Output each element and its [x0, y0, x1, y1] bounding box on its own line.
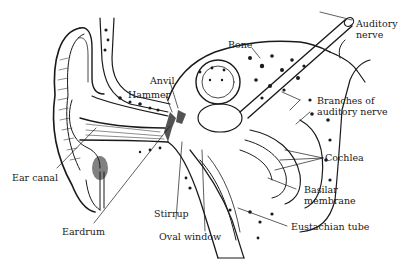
ear-canal-shape	[80, 118, 168, 142]
label-hammer: Hammer	[128, 89, 170, 100]
label-anvil: Anvil	[150, 75, 174, 86]
tissue-stipple	[92, 156, 108, 180]
label-auditory-nerve-line2: nerve	[356, 29, 398, 40]
label-bone: Bone	[228, 39, 252, 50]
label-cochlea: Cochlea	[325, 152, 364, 163]
label-oval-window: Oval window	[159, 231, 221, 242]
label-basilar-membrane: Basilar membrane	[304, 184, 356, 206]
label-branches-line2: auditory nerve	[317, 106, 388, 117]
label-auditory-nerve-line1: Auditory	[356, 18, 398, 29]
pinna-hatching	[58, 58, 80, 160]
label-eardrum: Eardrum	[62, 226, 105, 237]
label-auditory-nerve: Auditory nerve	[356, 18, 398, 40]
label-eustachian-tube: Eustachian tube	[291, 221, 369, 232]
label-branches-of-auditory-nerve: Branches of auditory nerve	[317, 95, 388, 117]
label-basilar-line1: Basilar	[304, 184, 356, 195]
label-basilar-line2: membrane	[304, 195, 356, 206]
label-branches-line1: Branches of	[317, 95, 388, 106]
label-stirrup: Stirrup	[154, 208, 189, 219]
semicircular-canal	[196, 60, 240, 104]
ossicles	[164, 110, 186, 142]
ear-anatomy-diagram: Auditory nerve Bone Anvil Hammer Branche…	[0, 0, 409, 275]
vestibule	[198, 104, 242, 132]
label-ear-canal: Ear canal	[12, 172, 58, 183]
